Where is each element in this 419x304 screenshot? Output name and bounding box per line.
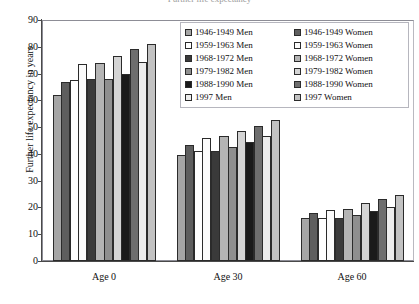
legend-label: 1979-1982 Women [304, 67, 373, 76]
bar [343, 209, 352, 261]
legend-column-women: 1946-1949 Women1959-1963 Women1968-1972 … [294, 26, 404, 104]
legend-swatch-icon [185, 68, 192, 75]
chart-figure: Further life expectancy Further life exp… [0, 0, 419, 304]
legend-entry[interactable]: 1997 Men [185, 91, 294, 104]
legend-label: 1959-1963 Men [195, 41, 253, 50]
legend-entry[interactable]: 1959-1963 Women [294, 39, 404, 52]
legend-swatch-icon [185, 81, 192, 88]
bar [104, 79, 113, 261]
bar [78, 64, 87, 261]
y-tick-label: 70 [28, 69, 38, 79]
legend-swatch-icon [294, 29, 301, 36]
bar [262, 136, 271, 261]
legend-swatch-icon [294, 94, 301, 101]
legend-entry[interactable]: 1968-1972 Women [294, 52, 404, 65]
bar [309, 213, 318, 261]
bar [121, 74, 130, 261]
bar [177, 155, 186, 261]
x-group-label: Age 30 [188, 271, 268, 283]
legend-entry[interactable]: 1997 Women [294, 91, 404, 104]
legend-swatch-icon [185, 55, 192, 62]
x-group-label: Age 60 [312, 271, 392, 283]
bar [219, 136, 228, 261]
legend-entry[interactable]: 1946-1949 Women [294, 26, 404, 39]
y-tick-label: 90 [28, 15, 38, 25]
bar [194, 151, 203, 261]
x-group-label: Age 0 [64, 271, 144, 283]
bar [113, 56, 122, 261]
legend-swatch-icon [294, 55, 301, 62]
bar [245, 142, 254, 261]
y-tick-mark [38, 261, 42, 262]
legend-swatch-icon [294, 68, 301, 75]
y-tick-label: 10 [28, 229, 38, 239]
bar [271, 120, 280, 261]
legend-label: 1988-1990 Men [195, 80, 253, 89]
legend-entry[interactable]: 1979-1982 Men [185, 65, 294, 78]
bar [254, 126, 263, 261]
bar [61, 82, 70, 261]
legend-swatch-icon [185, 94, 192, 101]
y-tick-label: 80 [28, 42, 38, 52]
legend-label: 1997 Men [195, 93, 232, 102]
legend-entry[interactable]: 1988-1990 Women [294, 78, 404, 91]
legend-label: 1946-1949 Women [304, 28, 373, 37]
y-tick-label: 50 [28, 122, 38, 132]
bar [361, 203, 370, 261]
bar [228, 147, 237, 261]
legend-label: 1968-1972 Men [195, 54, 253, 63]
legend-label: 1968-1972 Women [304, 54, 373, 63]
legend-label: 1988-1990 Women [304, 80, 373, 89]
legend-column-men: 1946-1949 Men1959-1963 Men1968-1972 Men1… [185, 26, 294, 104]
bar [395, 195, 404, 261]
bar [301, 218, 310, 261]
bar [211, 151, 220, 261]
legend-swatch-icon [294, 81, 301, 88]
y-tick-label: 40 [28, 149, 38, 159]
bar [147, 44, 156, 261]
y-tick-label: 30 [28, 176, 38, 186]
legend-entry[interactable]: 1946-1949 Men [185, 26, 294, 39]
bar [95, 63, 104, 261]
bar [335, 218, 344, 261]
bar [352, 215, 361, 261]
chart-title: Further life expectancy [0, 0, 419, 5]
legend-swatch-icon [185, 42, 192, 49]
bar [87, 79, 96, 261]
y-tick-label: 0 [33, 256, 38, 266]
legend-entry[interactable]: 1979-1982 Women [294, 65, 404, 78]
bar [237, 131, 246, 261]
bar [130, 49, 139, 261]
bar [53, 95, 62, 261]
bar [369, 211, 378, 261]
legend-label: 1959-1963 Women [304, 41, 373, 50]
bar [138, 62, 147, 261]
chart-legend: 1946-1949 Men1959-1963 Men1968-1972 Men1… [180, 22, 409, 108]
legend-swatch-icon [185, 29, 192, 36]
bar [202, 138, 211, 261]
legend-label: 1979-1982 Men [195, 67, 253, 76]
bar [326, 210, 335, 261]
legend-entry[interactable]: 1988-1990 Men [185, 78, 294, 91]
legend-swatch-icon [294, 42, 301, 49]
bar [70, 80, 79, 261]
legend-entry[interactable]: 1959-1963 Men [185, 39, 294, 52]
bar [378, 199, 387, 261]
y-tick-label: 60 [28, 95, 38, 105]
legend-label: 1997 Women [304, 93, 352, 102]
legend-label: 1946-1949 Men [195, 28, 253, 37]
bar [386, 207, 395, 261]
y-tick-label: 20 [28, 202, 38, 212]
x-axis-line [41, 261, 414, 262]
legend-entry[interactable]: 1968-1972 Men [185, 52, 294, 65]
chart-title-clipped: Further life expectancy [0, 0, 419, 9]
bar [318, 218, 327, 261]
bar [185, 145, 194, 261]
